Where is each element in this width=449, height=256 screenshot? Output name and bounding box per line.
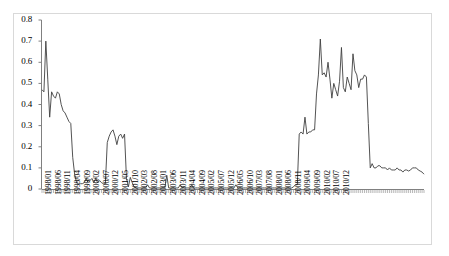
y-tick-label: 0.6 bbox=[10, 57, 32, 66]
x-tick-label: 2002/08 bbox=[151, 170, 159, 195]
y-tick-label: 0.7 bbox=[10, 36, 32, 45]
x-tick-label: 2008/11 bbox=[295, 170, 303, 195]
x-tick-label: 2009/09 bbox=[314, 170, 322, 195]
axis-lines bbox=[42, 20, 425, 190]
y-tick-label: 0 bbox=[10, 184, 32, 193]
y-tick-label: 0.8 bbox=[10, 15, 32, 24]
x-tick-label: 2008/06 bbox=[285, 170, 293, 195]
y-tick-label: 0.1 bbox=[10, 163, 32, 172]
plot-area: 00.10.20.30.40.50.60.70.8 1998/011998/06… bbox=[0, 0, 449, 256]
x-tick-label: 2005/12 bbox=[228, 170, 236, 195]
x-tick-label: 2003/11 bbox=[180, 170, 188, 195]
x-tick-label: 2007/08 bbox=[266, 170, 274, 195]
x-tick-label: 2003/06 bbox=[170, 170, 178, 195]
x-tick-label: 1998/11 bbox=[64, 170, 72, 195]
data-series-line bbox=[42, 39, 424, 188]
x-tick-label: 2004/04 bbox=[189, 170, 197, 195]
x-tick-label: 1998/06 bbox=[55, 170, 63, 195]
x-tick-label: 1999/04 bbox=[74, 170, 82, 195]
x-tick-label: 2004/09 bbox=[199, 170, 207, 195]
y-tick-label: 0.4 bbox=[10, 100, 32, 109]
x-tick-label: 1998/01 bbox=[45, 170, 53, 195]
x-tick-label: 2001/05 bbox=[122, 170, 130, 195]
x-tick-label: 2000/07 bbox=[103, 170, 111, 195]
x-tick-label: 2009/04 bbox=[304, 170, 312, 195]
x-tick-label: 2010/12 bbox=[343, 170, 351, 195]
x-tick-label: 2007/03 bbox=[256, 170, 264, 195]
x-tick-label: 2006/10 bbox=[247, 170, 255, 195]
x-tick-label: 2000/02 bbox=[93, 170, 101, 195]
x-tick-label: 1999/09 bbox=[84, 170, 92, 195]
x-tick-label: 2001/10 bbox=[132, 170, 140, 195]
chart-figure: 00.10.20.30.40.50.60.70.8 1998/011998/06… bbox=[0, 0, 449, 256]
y-tick-label: 0.3 bbox=[10, 121, 32, 130]
x-tick-label: 2010/07 bbox=[333, 170, 341, 195]
x-tick-label: 2008/01 bbox=[276, 170, 284, 195]
x-tick-label: 2002/03 bbox=[141, 170, 149, 195]
y-tick-label: 0.5 bbox=[10, 78, 32, 87]
x-tick-label: 2003/01 bbox=[160, 170, 168, 195]
x-tick-label: 2006/05 bbox=[237, 170, 245, 195]
x-tick-label: 2000/12 bbox=[112, 170, 120, 195]
line-chart-svg bbox=[0, 0, 449, 256]
x-tick-label: 2005/02 bbox=[208, 170, 216, 195]
x-tick-label: 2005/07 bbox=[218, 170, 226, 195]
y-tick-label: 0.2 bbox=[10, 142, 32, 151]
x-tick-label: 2010/02 bbox=[324, 170, 332, 195]
